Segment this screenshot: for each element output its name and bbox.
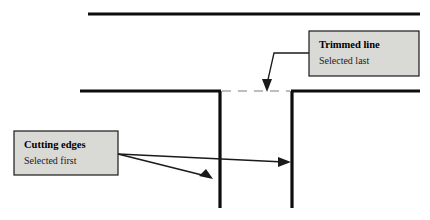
cutting-edge-right-arrowhead: [278, 157, 291, 167]
callout-trimmed-line-title: Trimmed line: [319, 39, 380, 50]
trim-diagram: Trimmed line Selected last Cutting edges…: [0, 0, 430, 220]
cutting-edge-left-arrowhead: [199, 169, 213, 179]
diagram-canvas: Trimmed line Selected last Cutting edges…: [0, 0, 430, 220]
callout-trimmed-line-subtitle: Selected last: [319, 55, 369, 66]
callout-cutting-edges-box: [14, 131, 118, 175]
callout-cutting-edges-subtitle: Selected first: [24, 155, 77, 166]
leader-lines: [118, 53, 309, 179]
callout-trimmed-line[interactable]: Trimmed line Selected last: [309, 31, 419, 76]
callout-trimmed-line-box: [309, 31, 419, 76]
callout-cutting-edges[interactable]: Cutting edges Selected first: [14, 131, 118, 175]
trimmed-line-arrowhead: [262, 79, 272, 92]
callout-cutting-edges-title: Cutting edges: [24, 139, 86, 150]
trimmed-line-leader: [267, 53, 309, 84]
